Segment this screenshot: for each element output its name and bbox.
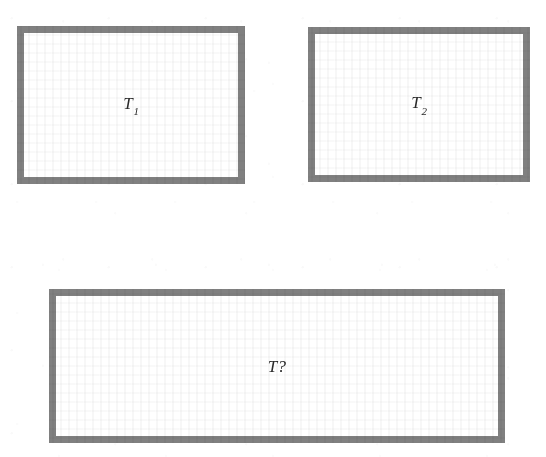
rectangle-t-unknown: T? bbox=[49, 289, 505, 443]
rectangle-t2-label: T2 bbox=[411, 94, 426, 114]
rectangle-t-unknown-inner: T? bbox=[56, 296, 498, 436]
rectangle-t2-label-subscript: 2 bbox=[421, 105, 427, 117]
rectangle-t1-label-base: T bbox=[123, 94, 133, 113]
rectangle-t1: T1 bbox=[17, 26, 245, 184]
rectangle-t1-inner: T1 bbox=[24, 33, 238, 177]
rectangle-t1-label-subscript: 1 bbox=[133, 105, 139, 117]
rectangle-t-unknown-label-question-mark: ? bbox=[277, 357, 286, 376]
rectangle-t2-inner: T2 bbox=[315, 34, 523, 175]
diagram-canvas: T1 T2 T? bbox=[0, 0, 546, 457]
rectangle-t2-label-base: T bbox=[411, 93, 421, 112]
rectangle-t-unknown-label: T? bbox=[268, 358, 286, 375]
rectangle-t2: T2 bbox=[308, 27, 530, 182]
rectangle-t1-label: T1 bbox=[123, 95, 138, 115]
